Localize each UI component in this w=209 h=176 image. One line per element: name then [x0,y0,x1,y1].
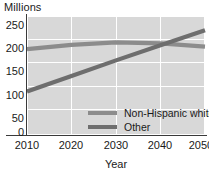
legend-label: Non-Hispanic white [124,107,209,119]
legend-swatch-icon [88,125,117,129]
y-tick-label: 200 [0,43,24,54]
series-line-other [27,30,205,91]
y-tick-label: 100 [0,90,24,101]
y-axis-spine [26,14,27,136]
x-tick-label: 2010 [7,139,47,151]
population-projection-line-chart: Millions 250 200 150 100 50 0 2010 2020 … [0,0,209,176]
x-tick-label: 2020 [51,139,91,151]
y-tick-label: 0 [0,127,24,138]
x-axis-title: Year [27,158,205,170]
legend-item-non-hispanic-white: Non-Hispanic white [88,106,209,120]
chart-legend: Non-Hispanic white Other [88,106,209,134]
series-line-non-hispanic-white [27,42,205,49]
x-axis-spine [6,135,207,136]
x-tick-label: 2050 [181,139,209,151]
y-tick-label: 150 [0,66,24,77]
y-tick-label: 50 [0,113,24,124]
x-tick-label: 2040 [140,139,180,151]
legend-item-other: Other [88,120,209,134]
legend-swatch-icon [88,111,117,115]
x-tick-label: 2030 [96,139,136,151]
legend-label: Other [124,121,150,133]
y-tick-label: 250 [0,20,24,31]
